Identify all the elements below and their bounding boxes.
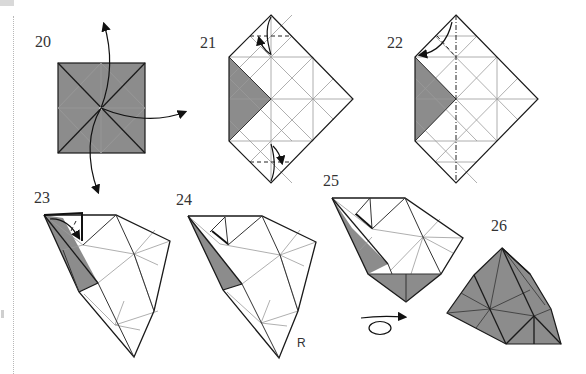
step-22-fold-arrow xyxy=(420,22,452,55)
turn-over-icon xyxy=(361,316,405,334)
step-25-folded-shape xyxy=(332,198,463,302)
step-23-folded-shape xyxy=(44,213,170,357)
origami-diagram xyxy=(0,0,586,374)
step-21-crease-pattern xyxy=(229,15,353,183)
step-26-finished-unit xyxy=(447,248,561,344)
step-24-folded-shape xyxy=(188,216,316,358)
step-22-crease-pattern xyxy=(415,15,538,183)
